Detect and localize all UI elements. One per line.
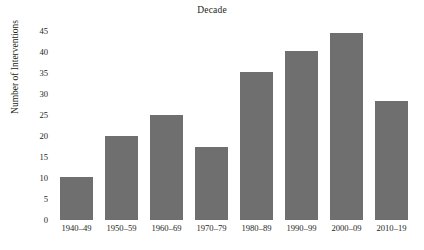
bar[interactable] xyxy=(195,147,229,220)
y-tick-label: 45 xyxy=(26,27,48,36)
y-tick-label: 5 xyxy=(26,195,48,204)
y-tick-label: 20 xyxy=(26,132,48,141)
y-axis-tick-labels: 051015202530354045 xyxy=(26,22,48,220)
bar-slot xyxy=(375,27,409,220)
y-tick-label: 15 xyxy=(26,153,48,162)
x-tick-label: 2010–19 xyxy=(369,223,414,233)
y-tick-label: 35 xyxy=(26,69,48,78)
bar-slot xyxy=(105,27,139,220)
y-axis-title: Number of Interventions xyxy=(10,0,20,137)
y-tick-label: 30 xyxy=(26,90,48,99)
bar[interactable] xyxy=(60,177,94,220)
y-tick-label: 40 xyxy=(26,48,48,57)
plot-area xyxy=(54,27,414,220)
bar[interactable] xyxy=(285,51,319,221)
x-tick-label: 1940–49 xyxy=(54,223,99,233)
bar-slot xyxy=(150,27,184,220)
x-tick-label: 1950–59 xyxy=(99,223,144,233)
bar-slot xyxy=(60,27,94,220)
x-axis-tick-labels: 1940–491950–591960–691970–791980–891990–… xyxy=(54,223,414,239)
bar[interactable] xyxy=(240,72,274,220)
x-tick-label: 1970–79 xyxy=(189,223,234,233)
x-tick-label: 1980–89 xyxy=(234,223,279,233)
bar[interactable] xyxy=(375,101,409,220)
x-tick-label: 2000–09 xyxy=(324,223,369,233)
bar[interactable] xyxy=(105,136,139,220)
bar[interactable] xyxy=(150,115,184,220)
y-tick-label: 10 xyxy=(26,174,48,183)
bar[interactable] xyxy=(330,33,364,220)
bar-chart: Decade Number of Interventions 051015202… xyxy=(0,0,424,250)
bar-slot xyxy=(195,27,229,220)
chart-title: Decade xyxy=(0,5,424,15)
y-tick-label: 25 xyxy=(26,111,48,120)
x-tick-label: 1990–99 xyxy=(279,223,324,233)
bar-slot xyxy=(330,27,364,220)
bar-slot xyxy=(240,27,274,220)
y-tick-label: 0 xyxy=(26,216,48,225)
x-tick-label: 1960–69 xyxy=(144,223,189,233)
bar-slot xyxy=(285,27,319,220)
